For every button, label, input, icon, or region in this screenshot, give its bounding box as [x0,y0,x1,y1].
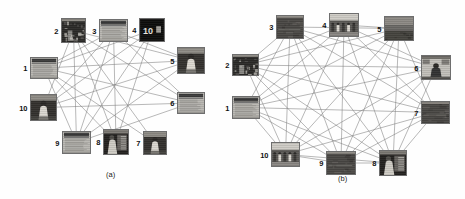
graph-edge-a-2-9 [74,31,77,143]
graph-node-b-1[interactable]: 1 [232,96,260,119]
node-label-b-10: 10 [260,150,268,159]
graph-edge-b-5-9 [341,29,399,164]
node-thumbnail-dark-foliage-scene [61,18,86,43]
node-thumbnail-person-light-subject [30,94,57,121]
node-label-b-7: 7 [414,108,418,117]
graph-edge-b-1-6 [246,68,436,108]
graph-edge-b-4-9 [341,25,344,163]
graph-edge-a-3-8 [114,31,117,143]
svg-text:10: 10 [143,26,153,36]
node-label-a-2: 2 [54,26,58,35]
node-label-a-10: 10 [19,103,27,112]
node-label-b-2: 2 [225,61,229,70]
node-thumbnail-dark-flat-scene [421,101,450,124]
node-thumbnail-person-light-subject [143,131,167,155]
graph-node-b-8[interactable]: 8 [379,150,407,176]
node-thumbnail-document-page-grayscale [177,92,205,114]
graph-edge-b-2-8 [246,65,394,163]
node-thumbnail-document-page-grayscale [30,57,58,79]
graph-node-a-8[interactable]: 8 [103,129,129,155]
node-thumbnail-group-outdoor-scene [329,13,359,37]
node-thumbnail-dark-foliage-scene [232,54,259,76]
graph-edge-b-5-8 [393,29,399,164]
node-thumbnail-person-light-subject [177,47,205,74]
graph-edge-a-5-10 [44,61,192,108]
graph-edge-b-4-8 [344,25,393,163]
node-label-a-7: 7 [136,139,140,148]
graph-edge-a-1-6 [44,68,191,103]
node-label-b-9: 9 [319,159,323,168]
graph-edge-b-3-8 [290,27,393,163]
graph-edge-a-4-8 [116,30,152,142]
node-thumbnail-group-outdoor-scene [271,142,300,167]
graph-edge-a-3-9 [77,31,114,143]
graph-node-b-9[interactable]: 9 [326,151,356,175]
graph-node-a-4[interactable]: 104 [139,18,165,42]
node-thumbnail-document-page-grayscale [99,19,128,42]
node-label-a-1: 1 [23,64,27,73]
graph-edge-b-1-5 [246,29,399,108]
graph-node-b-2[interactable]: 2 [232,54,259,76]
graph-edge-b-2-7 [246,65,436,113]
node-thumbnail-seated-person-indoor [421,55,451,80]
graph-node-b-10[interactable]: 10 [271,142,300,167]
node-label-b-3: 3 [269,23,273,32]
graph-edge-a-4-9 [77,30,153,143]
node-label-a-5: 5 [170,56,174,65]
node-thumbnail-dark-flat-scene [326,151,356,175]
graph-edge-b-7-10 [286,113,436,155]
graph-node-a-6[interactable]: 6 [177,92,205,114]
node-thumbnail-dark-sign-with-text: 10 [139,18,165,42]
node-label-a-8: 8 [96,138,100,147]
node-label-a-9: 9 [55,138,59,147]
graph-edge-b-4-10 [286,25,345,155]
graph-node-a-9[interactable]: 9 [62,131,91,154]
graph-node-b-6[interactable]: 6 [421,55,451,80]
node-label-a-3: 3 [92,26,96,35]
graph-node-a-3[interactable]: 3 [99,19,128,42]
graph-edge-a-6-10 [44,103,192,108]
graph-edge-b-3-6 [290,27,436,68]
node-label-a-6: 6 [170,99,174,108]
graph-edge-a-2-6 [74,31,192,104]
graph-edge-a-2-7 [74,31,156,144]
graph-edge-b-2-6 [246,65,437,68]
node-thumbnail-dark-flat-scene [276,15,304,39]
graph-edge-a-2-8 [74,31,117,143]
graph-node-a-2[interactable]: 2 [61,18,86,43]
graph-edge-b-3-10 [286,27,291,155]
graph-edge-b-5-10 [286,29,400,155]
node-label-b-6: 6 [414,63,418,72]
panel-b-caption: (b) [338,174,347,183]
graph-edge-a-1-5 [44,61,191,69]
graph-node-b-4[interactable]: 4 [329,13,359,37]
node-label-b-8: 8 [372,159,376,168]
node-label-b-1: 1 [225,103,229,112]
graph-node-b-7[interactable]: 7 [421,101,450,124]
node-thumbnail-document-page-grayscale [232,96,260,119]
graph-edge-b-2-5 [246,29,400,66]
graph-node-b-5[interactable]: 5 [384,16,414,41]
graph-node-a-1[interactable]: 1 [30,57,58,79]
graph-edge-b-1-7 [246,108,436,113]
node-thumbnail-document-page-grayscale [62,131,91,154]
node-label-b-5: 5 [377,24,381,33]
graph-node-a-10[interactable]: 10 [30,94,57,121]
graph-edge-a-1-7 [44,68,155,143]
graph-edge-a-6-9 [77,103,192,143]
graph-node-a-7[interactable]: 7 [143,131,167,155]
node-thumbnail-dark-indoor-figure [103,129,129,155]
panel-b: 12345678910 (b) [232,0,465,199]
node-thumbnail-landscape-sky-scene [384,16,414,41]
graph-edge-a-4-10 [44,30,153,108]
node-label-a-4: 4 [132,26,136,35]
node-thumbnail-dark-indoor-figure [379,150,407,176]
figure-root: 1231045678910 (a) 12345678910 (b) [0,0,465,199]
graph-node-a-5[interactable]: 5 [177,47,205,74]
graph-node-b-3[interactable]: 3 [276,15,304,39]
panel-a-caption: (a) [106,170,115,179]
node-label-b-4: 4 [322,21,326,30]
panel-a: 1231045678910 (a) [0,0,232,199]
